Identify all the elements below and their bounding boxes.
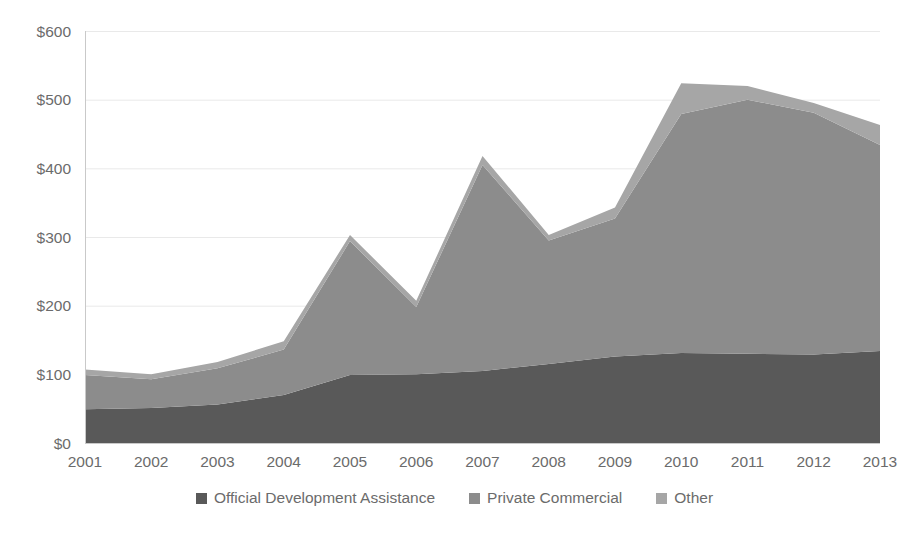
x-tick-label: 2013 bbox=[863, 453, 897, 470]
chart-legend: Official Development AssistancePrivate C… bbox=[0, 489, 909, 507]
legend-swatch-icon bbox=[656, 493, 667, 504]
y-tick-label: $0 bbox=[54, 435, 72, 452]
legend-label: Official Development Assistance bbox=[214, 489, 435, 507]
x-tick-labels-group: 2001200220032004200520062007200820092010… bbox=[68, 453, 897, 470]
x-tick-label: 2004 bbox=[267, 453, 302, 470]
stacked-area-chart: $0$100$200$300$400$500$600 2001200220032… bbox=[0, 0, 909, 541]
y-tick-label: $200 bbox=[37, 297, 72, 314]
x-tick-label: 2003 bbox=[200, 453, 234, 470]
chart-canvas: $0$100$200$300$400$500$600 2001200220032… bbox=[0, 0, 909, 541]
x-tick-label: 2006 bbox=[399, 453, 433, 470]
y-tick-label: $500 bbox=[37, 91, 72, 108]
y-tick-label: $600 bbox=[37, 23, 72, 40]
legend-label: Other bbox=[674, 489, 713, 507]
y-tick-label: $100 bbox=[37, 366, 72, 383]
y-tick-labels-group: $0$100$200$300$400$500$600 bbox=[37, 23, 72, 452]
legend-item[interactable]: Official Development Assistance bbox=[196, 489, 435, 507]
legend-item[interactable]: Other bbox=[656, 489, 713, 507]
series-areas-group bbox=[85, 83, 880, 443]
x-tick-label: 2009 bbox=[598, 453, 632, 470]
legend-label: Private Commercial bbox=[487, 489, 622, 507]
x-tick-label: 2012 bbox=[797, 453, 831, 470]
legend-item[interactable]: Private Commercial bbox=[469, 489, 622, 507]
x-tick-label: 2005 bbox=[333, 453, 367, 470]
legend-swatch-icon bbox=[469, 493, 480, 504]
x-tick-label: 2008 bbox=[532, 453, 566, 470]
legend-swatch-icon bbox=[196, 493, 207, 504]
x-tick-label: 2011 bbox=[731, 453, 764, 470]
y-tick-label: $400 bbox=[37, 160, 72, 177]
y-tick-label: $300 bbox=[37, 229, 72, 246]
x-tick-label: 2010 bbox=[664, 453, 699, 470]
x-tick-label: 2001 bbox=[68, 453, 102, 470]
x-tick-label: 2007 bbox=[465, 453, 499, 470]
x-tick-label: 2002 bbox=[134, 453, 168, 470]
